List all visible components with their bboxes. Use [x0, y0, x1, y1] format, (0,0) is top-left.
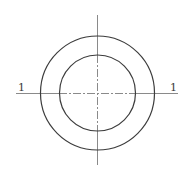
- section-label-right: 1: [170, 81, 177, 94]
- drawing-canvas: 1 1: [0, 0, 193, 179]
- section-label-left: 1: [18, 81, 25, 94]
